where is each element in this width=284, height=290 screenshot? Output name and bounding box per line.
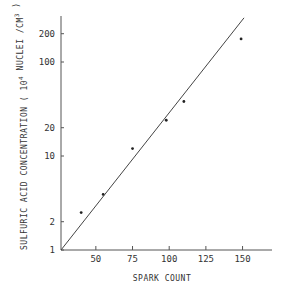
data-point [80, 211, 83, 214]
x-tick-label: 75 [127, 254, 138, 264]
y-axis-title: SULFURIC ACID CONCENTRATION ( 104 NUCLEI… [12, 3, 29, 251]
data-point [182, 100, 185, 103]
x-tick-label: 100 [161, 254, 177, 264]
svg-text:SULFURIC ACID CONCENTRATION (: SULFURIC ACID CONCENTRATION ( 104 NUCLEI… [12, 3, 29, 251]
y-tick-label: 1 [50, 245, 55, 255]
x-tick-label: 125 [198, 254, 214, 264]
chart: 5075100125150121020100200 SULFURIC ACID … [0, 0, 284, 290]
y-tick-label: 100 [39, 57, 55, 67]
data-point [131, 147, 134, 150]
y-tick-label: 200 [39, 29, 55, 39]
data-point [165, 119, 168, 122]
y-tick-label: 10 [44, 151, 55, 161]
y-tick-label: 20 [44, 123, 55, 133]
y-tick-label: 2 [50, 217, 55, 227]
plot-area: 5075100125150121020100200 [39, 16, 272, 264]
data-point [240, 38, 243, 41]
x-axis-title: SPARK COUNT [133, 274, 191, 283]
fit-line [61, 18, 244, 250]
x-tick-label: 50 [90, 254, 101, 264]
x-tick-label: 150 [234, 254, 250, 264]
